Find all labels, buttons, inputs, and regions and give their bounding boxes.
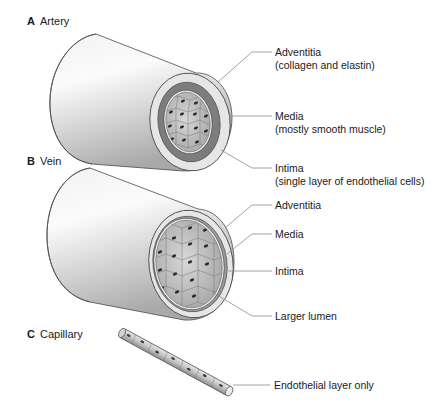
callout-vein-larger-lumen: Larger lumen	[275, 310, 337, 323]
panel-label-vein: BVein	[27, 155, 61, 168]
panel-title: Capillary	[40, 328, 83, 340]
vein-illustration	[47, 168, 272, 323]
panel-letter: B	[27, 155, 35, 167]
panel-title: Vein	[40, 155, 61, 167]
callout-sublabel: (single layer of endothelial cells)	[275, 175, 424, 188]
callout-label: Adventitia	[275, 199, 321, 212]
blood-vessel-diagram: AArtery BVein CCapillary Adventitia (col…	[0, 0, 433, 413]
callout-label: Adventitia	[275, 46, 375, 59]
callout-sublabel: (collagen and elastin)	[275, 59, 375, 72]
callout-vein-media: Media	[275, 228, 304, 241]
callout-capillary-endothelial: Endothelial layer only	[274, 379, 374, 392]
panel-letter: A	[27, 15, 35, 27]
callout-label: Intima	[275, 265, 304, 278]
callout-label: Media	[275, 110, 386, 123]
callout-label: Endothelial layer only	[274, 379, 374, 392]
panel-label-artery: AArtery	[27, 15, 69, 28]
callout-artery-media: Media (mostly smooth muscle)	[275, 110, 386, 135]
callout-label: Intima	[275, 162, 424, 175]
callout-artery-intima: Intima (single layer of endothelial cell…	[275, 162, 424, 187]
panel-title: Artery	[40, 15, 69, 27]
panel-label-capillary: CCapillary	[27, 328, 83, 341]
capillary-tube	[120, 329, 232, 396]
callout-artery-adventitia: Adventitia (collagen and elastin)	[275, 46, 375, 71]
callout-sublabel: (mostly smooth muscle)	[275, 123, 386, 136]
callout-vein-intima: Intima	[275, 265, 304, 278]
panel-letter: C	[27, 328, 35, 340]
callout-label: Media	[275, 228, 304, 241]
callout-vein-adventitia: Adventitia	[275, 199, 321, 212]
callout-label: Larger lumen	[275, 310, 337, 323]
artery-illustration	[50, 34, 272, 176]
capillary-illustration	[117, 327, 270, 397]
